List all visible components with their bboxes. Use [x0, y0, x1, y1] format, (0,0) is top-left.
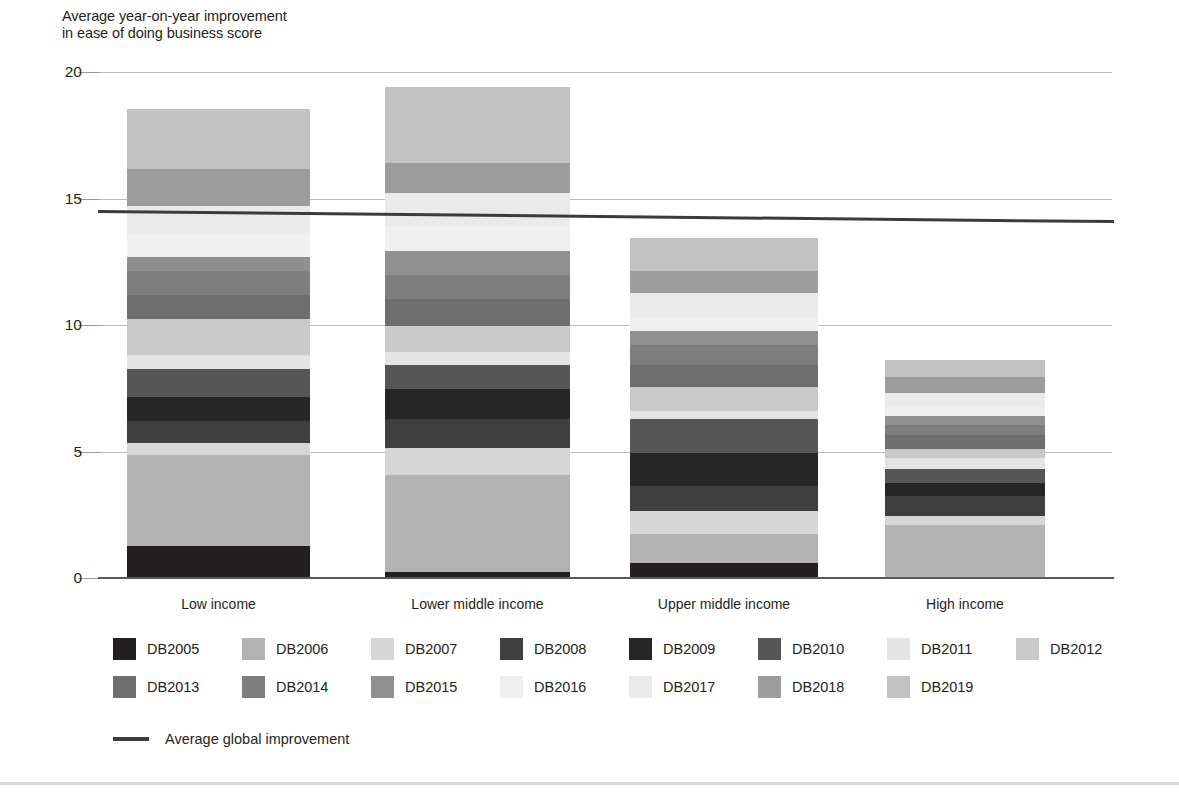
y-tick-label-5: 5 [34, 443, 82, 461]
bar-segment-DB2006 [885, 524, 1045, 578]
legend-item-DB2005: DB2005 [113, 637, 199, 661]
bar-segment-DB2011 [127, 355, 310, 370]
bar-segment-DB2006 [385, 474, 570, 572]
bar-segment-DB2015 [630, 331, 818, 346]
bar-segment-DB2006 [630, 533, 818, 563]
bar-segment-DB2013 [885, 434, 1045, 449]
bar-segment-DB2018 [630, 270, 818, 293]
legend-item-DB2010: DB2010 [758, 637, 844, 661]
legend-item-DB2008: DB2008 [500, 637, 586, 661]
bar-high-income [885, 360, 1045, 578]
legend-swatch-DB2013 [113, 676, 136, 698]
bar-segment-DB2019 [385, 87, 570, 162]
legend-label-DB2011: DB2011 [921, 641, 972, 657]
y-tick-label-0: 0 [34, 569, 82, 587]
average-line-swatch [113, 737, 149, 740]
bar-segment-DB2017 [885, 393, 1045, 408]
legend-label-average: Average global improvement [165, 731, 349, 747]
chart-figure: Average year-on-year improvementin ease … [0, 0, 1179, 793]
bar-segment-DB2019 [630, 238, 818, 270]
legend-item-DB2019: DB2019 [887, 675, 973, 699]
legend-label-DB2019: DB2019 [921, 679, 973, 695]
bar-segment-DB2011 [630, 410, 818, 418]
legend-label-DB2010: DB2010 [792, 641, 844, 657]
legend-label-DB2014: DB2014 [276, 679, 328, 695]
footer-rule [0, 782, 1179, 785]
bar-segment-DB2006 [127, 455, 310, 547]
bar-segment-DB2009 [385, 388, 570, 419]
bar-segment-DB2007 [630, 510, 818, 533]
bar-segment-DB2010 [885, 469, 1045, 484]
legend-swatch-DB2019 [887, 676, 910, 698]
legend-item-DB2017: DB2017 [629, 675, 715, 699]
legend-row-1: DB2005DB2006DB2007DB2008DB2009DB2010DB20… [113, 637, 1113, 675]
legend-swatch-DB2018 [758, 676, 781, 698]
bar-segment-DB2011 [885, 457, 1045, 469]
bar-segment-DB2010 [127, 369, 310, 397]
legend-label-DB2017: DB2017 [663, 679, 715, 695]
legend-item-DB2013: DB2013 [113, 675, 199, 699]
legend-swatch-DB2008 [500, 638, 523, 660]
bar-segment-DB2015 [385, 251, 570, 276]
bar-segment-DB2018 [885, 376, 1045, 393]
bar-segment-DB2011 [385, 352, 570, 365]
legend-label-DB2013: DB2013 [147, 679, 199, 695]
legend-swatch-DB2006 [242, 638, 265, 660]
plot-area: 05101520 [100, 72, 1112, 578]
legend-swatch-DB2009 [629, 638, 652, 660]
bar-segment-DB2009 [127, 397, 310, 422]
legend-label-DB2012: DB2012 [1050, 641, 1102, 657]
legend-swatch-DB2010 [758, 638, 781, 660]
bar-segment-DB2008 [885, 495, 1045, 516]
bar-segment-DB2007 [385, 448, 570, 475]
bar-segment-DB2014 [385, 275, 570, 300]
legend-item-DB2009: DB2009 [629, 637, 715, 661]
bar-segment-DB2013 [385, 299, 570, 326]
legend-item-DB2018: DB2018 [758, 675, 844, 699]
bar-segment-DB2005 [630, 562, 818, 578]
bar-segment-DB2012 [385, 325, 570, 352]
y-tick-label-10: 10 [34, 316, 82, 334]
bar-low-income [127, 110, 310, 578]
bar-segment-DB2013 [127, 294, 310, 319]
bar-segment-DB2016 [630, 317, 818, 332]
legend-item-average-line: Average global improvement [113, 731, 349, 747]
legend-item-DB2012: DB2012 [1016, 637, 1102, 661]
bar-segment-DB2013 [630, 365, 818, 387]
legend-swatch-DB2005 [113, 638, 136, 660]
legend-label-DB2016: DB2016 [534, 679, 586, 695]
bar-lower-middle-income [385, 88, 570, 578]
bar-segment-DB2016 [385, 225, 570, 251]
legend-swatch-DB2007 [371, 638, 394, 660]
legend-label-DB2018: DB2018 [792, 679, 844, 695]
bar-segment-DB2019 [127, 109, 310, 169]
bar-segment-DB2016 [127, 232, 310, 257]
bar-segment-DB2017 [630, 293, 818, 318]
legend-label-DB2005: DB2005 [147, 641, 199, 657]
bar-segment-DB2018 [385, 162, 570, 193]
legend-item-DB2015: DB2015 [371, 675, 457, 699]
legend-item-DB2006: DB2006 [242, 637, 328, 661]
bar-segment-DB2014 [127, 270, 310, 295]
legend-swatch-DB2012 [1016, 638, 1039, 660]
bar-segment-DB2008 [630, 485, 818, 511]
bar-segment-DB2007 [127, 442, 310, 455]
gridline-20 [100, 72, 1112, 73]
legend-swatch-DB2017 [629, 676, 652, 698]
legend-label-DB2007: DB2007 [405, 641, 457, 657]
bar-segment-DB2005 [127, 546, 310, 578]
legend-label-DB2006: DB2006 [276, 641, 328, 657]
bar-segment-DB2009 [630, 452, 818, 485]
bar-segment-DB2008 [127, 421, 310, 443]
y-tick-label-20: 20 [34, 63, 82, 81]
category-label-high-income: High income [885, 596, 1045, 612]
legend-item-DB2011: DB2011 [887, 637, 972, 661]
bar-segment-DB2012 [127, 318, 310, 355]
y-axis-title: Average year-on-year improvementin ease … [62, 8, 287, 42]
legend-swatch-DB2015 [371, 676, 394, 698]
legend-row-2: DB2013DB2014DB2015DB2016DB2017DB2018DB20… [113, 675, 1113, 713]
bar-segment-DB2018 [127, 169, 310, 206]
x-axis-baseline [98, 577, 1114, 579]
legend-item-DB2016: DB2016 [500, 675, 586, 699]
bar-segment-DB2012 [630, 386, 818, 411]
